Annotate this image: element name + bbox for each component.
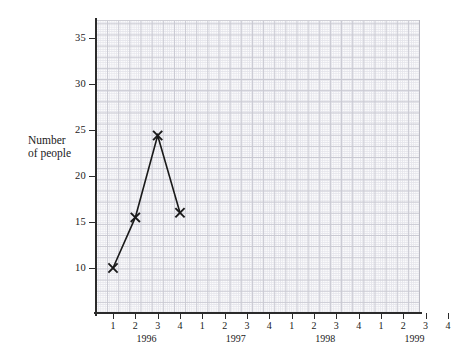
data-point-marker-4	[175, 208, 184, 217]
x-tick-16	[448, 313, 449, 319]
data-point-marker-2	[131, 213, 140, 222]
series-line-1	[113, 136, 180, 268]
data-point-marker-1	[108, 263, 117, 272]
data-point-marker-3	[153, 131, 162, 140]
